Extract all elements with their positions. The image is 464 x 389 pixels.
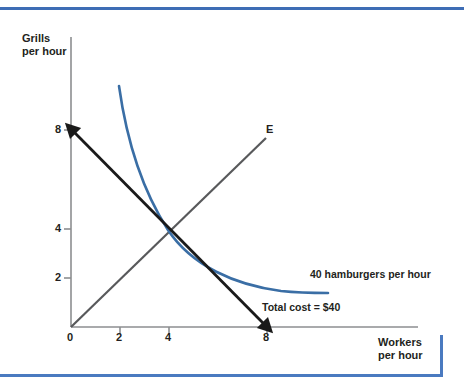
expansion-path-label: E (266, 123, 273, 136)
y-axis-title: Grills per hour (22, 32, 67, 58)
x-tick-label-8: 8 (263, 331, 269, 344)
y-tick-label-4: 4 (55, 222, 61, 235)
isoquant-curve (119, 86, 328, 293)
economics-figure: Grills per hour Workers per hour 8 4 2 0… (0, 0, 464, 389)
x-tick-label-4: 4 (165, 331, 171, 344)
isoquant-label: 40 hamburgers per hour (310, 268, 431, 280)
x-axis-title: Workers per hour (378, 336, 423, 362)
y-tick-label-8: 8 (55, 123, 61, 136)
x-tick-label-2: 2 (116, 331, 122, 344)
isocost-label: Total cost = $40 (262, 301, 340, 313)
y-tick-label-2: 2 (55, 271, 61, 284)
x-tick-label-0: 0 (67, 331, 73, 344)
